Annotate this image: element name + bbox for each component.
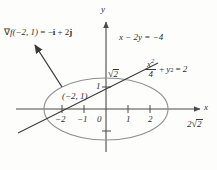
equation-plus: + — [159, 65, 164, 74]
x-tick-label-2: 2 — [148, 115, 153, 124]
x-tick-label-zero: 0 — [97, 115, 102, 124]
gradient-j-vector: j — [69, 27, 72, 37]
gradient-plus: + — [58, 27, 63, 37]
figure-canvas — [0, 0, 217, 170]
y-axis-label: y — [101, 5, 105, 14]
x-intercept-radicand: 2 — [196, 119, 203, 129]
gradient-i-vector: i — [53, 27, 56, 37]
numerator-exponent: 2 — [151, 57, 154, 64]
x-tick-label-neg2: −2 — [55, 115, 66, 124]
fraction: x2 4 — [145, 60, 156, 79]
fraction-denominator: 4 — [146, 70, 155, 79]
math-figure: ∇f(−2, 1) = −i + 2j x − 2y = −4 (−2, 1) … — [0, 0, 217, 170]
y-intercept-radicand: 2 — [113, 69, 120, 79]
x-intercept-label: 2√2 — [187, 114, 203, 130]
fraction-numerator: x2 — [145, 60, 156, 69]
gradient-vector-arrow — [35, 45, 62, 87]
y-intercept-label: √2 — [108, 64, 119, 80]
x-tick-label-1: 1 — [126, 115, 131, 124]
tangent-line — [18, 63, 158, 133]
equation-equals: = — [176, 65, 181, 74]
ellipse-equation-label: x2 4 + y2 = 2 — [144, 60, 187, 79]
line-equation-label: x − 2y = −4 — [119, 33, 163, 42]
point-label: (−2, 1) — [62, 92, 88, 101]
gradient-label: ∇f(−2, 1) = −i + 2j — [4, 28, 72, 37]
equation-rhs: 2 — [183, 65, 188, 74]
x-tick-label-neg1: −1 — [77, 115, 88, 124]
gradient-equals: = — [40, 27, 45, 37]
y-tick-label-1: 1 — [96, 82, 101, 91]
x-axis-label: x — [204, 103, 208, 112]
gradient-args: (−2, 1) — [13, 27, 39, 37]
